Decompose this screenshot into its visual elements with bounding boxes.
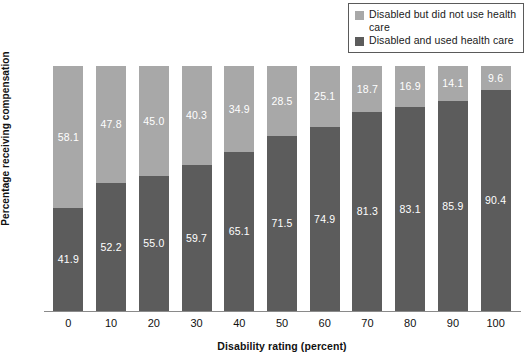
bar-segment-value-label: 65.1 — [229, 226, 250, 237]
bar-segment-used-health-care: 83.1 — [395, 107, 425, 311]
bar-segment-no-health-care: 25.1 — [310, 66, 340, 127]
x-tick-label: 90 — [438, 317, 468, 329]
bar-column: 25.174.9 — [310, 66, 340, 311]
bar-segment-value-label: 85.9 — [442, 201, 463, 212]
x-tick-label: 70 — [352, 317, 382, 329]
x-tick-label: 60 — [310, 317, 340, 329]
bar-segment-value-label: 52.2 — [100, 242, 121, 253]
bar-column: 14.185.9 — [438, 66, 468, 311]
bar-segment-value-label: 25.1 — [314, 91, 335, 102]
bar-segment-value-label: 45.0 — [143, 116, 164, 127]
bar-segment-value-label: 81.3 — [357, 206, 378, 217]
bar-segment-used-health-care: 90.4 — [481, 90, 511, 311]
bar-segment-value-label: 34.9 — [229, 104, 250, 115]
bar-column: 45.055.0 — [139, 66, 169, 311]
bar-column: 40.359.7 — [182, 66, 212, 311]
bar-segment-used-health-care: 74.9 — [310, 127, 340, 311]
bar-segment-value-label: 71.5 — [271, 218, 292, 229]
bar-segment-no-health-care: 47.8 — [96, 66, 126, 183]
stacked-bar-chart: Disabled but did not use health care Dis… — [0, 0, 530, 363]
bar-segment-value-label: 58.1 — [58, 132, 79, 143]
bar-segment-value-label: 59.7 — [186, 233, 207, 244]
bar-segment-used-health-care: 71.5 — [267, 136, 297, 311]
legend-label-no-health-care: Disabled but did not use health care — [369, 8, 518, 33]
x-axis-tick-labels: 0102030405060708090100 — [47, 314, 517, 338]
legend-label-used-health-care: Disabled and used health care — [369, 34, 514, 47]
bar-column: 58.141.9 — [53, 66, 83, 311]
bar-segment-value-label: 90.4 — [485, 195, 506, 206]
legend-swatch-light-icon — [355, 11, 364, 20]
bar-segment-value-label: 83.1 — [400, 204, 421, 215]
x-axis-line — [44, 311, 521, 312]
x-tick-label: 10 — [96, 317, 126, 329]
legend-item-no-health-care: Disabled but did not use health care — [355, 8, 518, 33]
x-tick-label: 0 — [53, 317, 83, 329]
bar-segment-no-health-care: 58.1 — [53, 66, 83, 208]
x-tick-label: 50 — [267, 317, 297, 329]
legend-item-used-health-care: Disabled and used health care — [355, 34, 518, 47]
x-tick-label: 40 — [224, 317, 254, 329]
y-axis-title: Percentage receiving compensation — [0, 0, 18, 320]
bar-segment-used-health-care: 81.3 — [352, 112, 382, 311]
bar-segment-used-health-care: 55.0 — [139, 176, 169, 311]
x-tick-label: 30 — [182, 317, 212, 329]
bar-segment-used-health-care: 59.7 — [182, 165, 212, 311]
plot-area: 58.141.947.852.245.055.040.359.734.965.1… — [47, 66, 517, 311]
bar-segment-used-health-care: 41.9 — [53, 208, 83, 311]
chart-legend: Disabled but did not use health care Dis… — [348, 3, 524, 53]
bar-column: 9.690.4 — [481, 66, 511, 311]
bar-segment-no-health-care: 40.3 — [182, 66, 212, 165]
bar-segment-no-health-care: 34.9 — [224, 66, 254, 152]
bar-segment-no-health-care: 18.7 — [352, 66, 382, 112]
bar-segment-used-health-care: 65.1 — [224, 152, 254, 311]
bar-segment-value-label: 16.9 — [400, 81, 421, 92]
bar-segment-no-health-care: 45.0 — [139, 66, 169, 176]
bar-segment-no-health-care: 9.6 — [481, 66, 511, 90]
bar-segment-value-label: 18.7 — [357, 84, 378, 95]
bar-column: 18.781.3 — [352, 66, 382, 311]
bar-segment-value-label: 74.9 — [314, 214, 335, 225]
x-tick-label: 80 — [395, 317, 425, 329]
bar-segment-used-health-care: 85.9 — [438, 101, 468, 311]
bar-segment-value-label: 28.5 — [271, 96, 292, 107]
bar-column: 34.965.1 — [224, 66, 254, 311]
x-tick-label: 100 — [481, 317, 511, 329]
bar-segment-value-label: 9.6 — [488, 73, 503, 84]
bar-column: 16.983.1 — [395, 66, 425, 311]
bar-segment-value-label: 47.8 — [100, 119, 121, 130]
bar-segment-no-health-care: 16.9 — [395, 66, 425, 107]
bar-segment-value-label: 14.1 — [442, 78, 463, 89]
bar-segment-used-health-care: 52.2 — [96, 183, 126, 311]
bar-column: 28.571.5 — [267, 66, 297, 311]
bar-segment-no-health-care: 14.1 — [438, 66, 468, 101]
bar-segment-value-label: 41.9 — [58, 254, 79, 265]
bar-segment-value-label: 40.3 — [186, 110, 207, 121]
x-tick-label: 20 — [139, 317, 169, 329]
bar-column: 47.852.2 — [96, 66, 126, 311]
x-axis-title: Disability rating (percent) — [47, 340, 517, 352]
bar-segment-no-health-care: 28.5 — [267, 66, 297, 136]
legend-swatch-dark-icon — [355, 37, 364, 46]
bar-segment-value-label: 55.0 — [143, 238, 164, 249]
